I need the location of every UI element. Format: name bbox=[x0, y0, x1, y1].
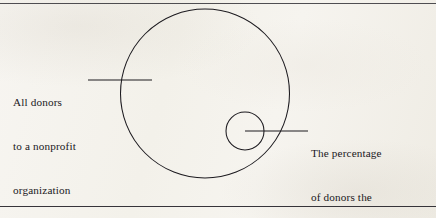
figure-page: All donors to a nonprofit organization T… bbox=[0, 0, 436, 218]
all-donors-label-line-3: organization bbox=[13, 183, 76, 198]
figure-caption bbox=[4, 209, 424, 218]
percentage-label-line-2: of donors the bbox=[311, 190, 411, 205]
top-divider-rule bbox=[0, 3, 436, 4]
percentage-label-line-1: The percentage bbox=[311, 146, 411, 161]
all-donors-circle bbox=[121, 9, 290, 178]
percentage-of-donors-label: The percentage of donors the organizatio… bbox=[311, 117, 411, 218]
all-donors-label-line-1: All donors bbox=[13, 95, 76, 110]
core-donors-circle bbox=[226, 112, 264, 150]
all-donors-label: All donors to a nonprofit organization bbox=[13, 66, 76, 218]
all-donors-label-line-2: to a nonprofit bbox=[13, 139, 76, 154]
